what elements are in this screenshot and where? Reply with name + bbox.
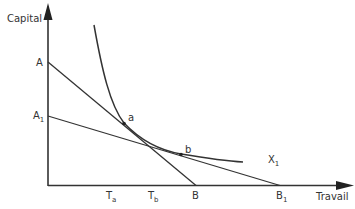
isocost-line-A1B1 bbox=[48, 116, 280, 186]
isocost-line-AB bbox=[48, 62, 196, 186]
isoquant-curve-X1 bbox=[94, 25, 243, 162]
label-B1: B1 bbox=[276, 190, 287, 204]
y-axis-arrow-icon bbox=[44, 3, 53, 20]
point-b-marker bbox=[179, 153, 183, 157]
label-a: a bbox=[128, 112, 134, 123]
label-A1: A1 bbox=[33, 110, 44, 124]
label-B: B bbox=[192, 190, 199, 201]
isoquant-diagram: Capital Travail A A1 Ta Tb B B1 a b X1 bbox=[0, 0, 355, 209]
y-axis-label: Capital bbox=[7, 13, 42, 24]
point-a-marker bbox=[122, 122, 126, 126]
x-axis-arrow-icon bbox=[336, 181, 354, 190]
label-Ta: Ta bbox=[105, 190, 116, 204]
x-axis-label: Travail bbox=[315, 191, 348, 202]
label-Tb: Tb bbox=[147, 190, 159, 204]
label-b: b bbox=[185, 144, 191, 155]
label-X1: X1 bbox=[268, 154, 279, 168]
label-A: A bbox=[36, 57, 43, 68]
